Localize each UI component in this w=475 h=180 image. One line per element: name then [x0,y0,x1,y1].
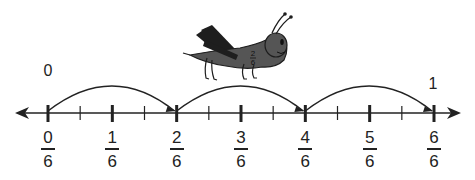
fraction-denominator: 6 [231,150,251,170]
tick-label-fraction: 06 [38,129,58,170]
grasshopper-label-numerator: 2 [251,49,256,58]
fraction-numerator: 4 [295,129,315,148]
fraction-numerator: 3 [231,129,251,148]
end-label: 1 [423,75,443,93]
grasshopper-antenna-tip-1 [283,12,287,16]
fraction-numerator: 2 [167,129,187,148]
grasshopper-illustration: 2 6 [183,12,293,80]
fraction-denominator: 6 [424,150,444,170]
grasshopper-head [265,33,287,57]
number-line-diagram: 2 6 0 1 06162636465666 [0,0,475,180]
fraction-denominator: 6 [167,150,187,170]
fraction-numerator: 6 [424,129,444,148]
jump-arrowhead-icon [290,103,304,112]
grasshopper-label-denominator: 6 [251,58,256,67]
number-line-axis [15,107,461,119]
tick-label-fraction: 26 [167,129,187,170]
fraction-numerator: 5 [360,129,380,148]
fraction-denominator: 6 [38,150,58,170]
tick-label-fraction: 66 [424,129,444,170]
jump-arrowhead-icon [162,103,176,112]
grasshopper-antenna-2 [276,17,291,34]
fraction-denominator: 6 [102,150,122,170]
fraction-numerator: 0 [38,129,58,148]
tick-label-fraction: 46 [295,129,315,170]
grasshopper-eye [280,39,284,45]
tick-label-fraction: 16 [102,129,122,170]
jump-arrowhead-icon [419,103,433,112]
grasshopper-antenna-tip-2 [289,15,293,19]
fraction-denominator: 6 [360,150,380,170]
fraction-numerator: 1 [102,129,122,148]
start-label: 0 [38,62,58,80]
tick-label-fraction: 36 [231,129,251,170]
fraction-denominator: 6 [295,150,315,170]
tick-label-fraction: 56 [360,129,380,170]
grasshopper-tail [183,53,190,55]
